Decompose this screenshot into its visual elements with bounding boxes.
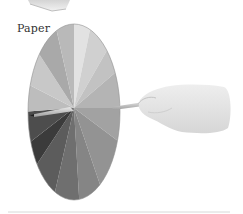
illustration: Paper xyxy=(0,0,243,214)
hand xyxy=(138,85,231,134)
caption-paper: Paper xyxy=(17,22,50,35)
paper-stack xyxy=(28,0,70,11)
